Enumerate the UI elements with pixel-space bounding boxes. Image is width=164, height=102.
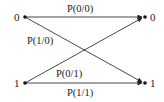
edge-label-p01: P(0/1) [56,68,83,80]
input-node-0-dot [23,15,27,19]
input-node-0-label: 0 [14,11,20,23]
input-node-1-label: 1 [14,77,20,89]
edge-1-to-0 [25,18,142,83]
edge-label-p00: P(0/0) [67,3,94,15]
binary-channel-diagram: 0 1 0 1 P(0/0) P(1/0) P(0/1) P(1/1) [0,0,164,102]
output-node-0-dot [143,15,147,19]
edge-0-to-1 [25,17,142,82]
output-node-1-dot [143,81,147,85]
edge-label-p11: P(1/1) [67,87,94,99]
input-node-1-dot [23,81,27,85]
output-node-0-label: 0 [150,11,156,23]
edge-label-p10: P(1/0) [27,35,54,47]
output-node-1-label: 1 [150,77,156,89]
